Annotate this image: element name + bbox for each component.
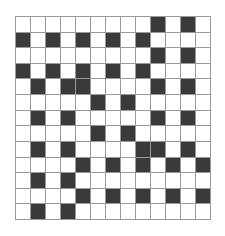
grid-cell-light (91, 111, 106, 127)
grid-cell-light (121, 33, 136, 49)
grid-cell-light (91, 79, 106, 95)
grid-cell-light (196, 64, 211, 80)
grid-cell-light (106, 48, 121, 64)
grid-cell-light (61, 158, 76, 174)
grid-cell-light (31, 189, 46, 205)
grid-cell-light (121, 79, 136, 95)
grid-cell-dark (151, 48, 166, 64)
grid-cell-light (136, 126, 151, 142)
grid-cell-dark (91, 126, 106, 142)
grid-cell-light (46, 189, 61, 205)
grid-cell-dark (121, 95, 136, 111)
grid-cell-light (46, 126, 61, 142)
grid-cell-dark (136, 142, 151, 158)
grid-cell-light (91, 64, 106, 80)
grid-cell-light (91, 204, 106, 220)
grid-cell-light (16, 189, 31, 205)
grid-cell-light (151, 189, 166, 205)
grid-cell-light (151, 64, 166, 80)
grid-cell-light (166, 64, 181, 80)
grid-cell-light (76, 204, 91, 220)
grid-cell-dark (61, 204, 76, 220)
grid-cell-light (151, 95, 166, 111)
grid-cell-light (106, 126, 121, 142)
grid-cell-dark (106, 64, 121, 80)
grid-cell-light (136, 95, 151, 111)
grid-cell-light (61, 126, 76, 142)
grid-cell-light (181, 173, 196, 189)
grid-cell-light (151, 33, 166, 49)
grid-cell-dark (166, 189, 181, 205)
grid-cell-dark (151, 79, 166, 95)
grid-cell-light (91, 48, 106, 64)
grid-cell-light (106, 79, 121, 95)
grid-cell-light (76, 142, 91, 158)
grid-cell-light (196, 126, 211, 142)
grid-cell-light (166, 33, 181, 49)
grid-cell-dark (181, 142, 196, 158)
grid-cell-dark (31, 173, 46, 189)
grid-cell-light (106, 204, 121, 220)
diagram-canvas (0, 0, 225, 236)
grid-cell-light (121, 173, 136, 189)
grid-cell-dark (91, 95, 106, 111)
grid-cell-light (121, 64, 136, 80)
grid-cell-light (136, 111, 151, 127)
grid-cell-light (76, 48, 91, 64)
grid-cell-light (91, 189, 106, 205)
grid-cell-light (181, 33, 196, 49)
grid-cell-dark (31, 79, 46, 95)
grid-cell-light (181, 189, 196, 205)
grid-cell-light (31, 95, 46, 111)
grid-cell-light (46, 173, 61, 189)
grid-cell-dark (106, 189, 121, 205)
grid-cell-dark (76, 158, 91, 174)
grid-cell-light (16, 48, 31, 64)
grid-cell-light (16, 142, 31, 158)
grid-cell-light (166, 17, 181, 33)
grid-cell-light (136, 48, 151, 64)
grid-cell-light (91, 173, 106, 189)
grid-cell-light (16, 158, 31, 174)
grid-cell-light (106, 142, 121, 158)
grid-cell-light (151, 173, 166, 189)
grid-cell-light (61, 64, 76, 80)
grid-cell-dark (136, 189, 151, 205)
grid-cell-light (106, 111, 121, 127)
grid-cell-light (46, 204, 61, 220)
grid-cell-dark (136, 158, 151, 174)
grid-cell-light (16, 79, 31, 95)
grid-cell-light (46, 79, 61, 95)
grid-cell-light (136, 173, 151, 189)
grid-cell-dark (46, 64, 61, 80)
grid-cell-light (16, 111, 31, 127)
grid-cell-light (16, 173, 31, 189)
grid-cell-light (196, 173, 211, 189)
grid-cell-light (136, 17, 151, 33)
grid-cell-light (91, 33, 106, 49)
grid-cell-light (61, 48, 76, 64)
grid-cell-light (181, 95, 196, 111)
grid-cell-light (181, 158, 196, 174)
grid-cell-light (31, 126, 46, 142)
grid-cell-dark (61, 173, 76, 189)
grid-cell-dark (121, 126, 136, 142)
grid-cell-light (91, 142, 106, 158)
grid-cell-dark (136, 33, 151, 49)
grid-cell-dark (166, 158, 181, 174)
grid-cell-dark (181, 111, 196, 127)
grid-cell-light (46, 111, 61, 127)
grid-cell-light (46, 158, 61, 174)
grid-cell-light (61, 95, 76, 111)
grid-cell-light (121, 17, 136, 33)
grid-cell-light (106, 173, 121, 189)
grid-cell-dark (181, 17, 196, 33)
grid-cell-light (91, 17, 106, 33)
grid-cell-light (166, 204, 181, 220)
grid-cell-light (166, 111, 181, 127)
grid-cell-light (121, 142, 136, 158)
grid-cell-light (196, 111, 211, 127)
grid-cell-light (166, 126, 181, 142)
grid-cell-dark (16, 64, 31, 80)
grid-cell-light (196, 79, 211, 95)
